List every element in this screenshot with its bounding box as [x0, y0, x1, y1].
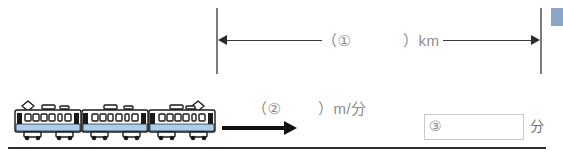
right-arrowhead-icon — [531, 35, 540, 45]
answer-unit-label: 分 — [530, 119, 544, 133]
blue-marker-icon — [551, 8, 563, 26]
speed-arrow-shaft — [222, 126, 286, 130]
speed-arrow-head-icon — [284, 121, 297, 135]
speed-blank-open-label: （② — [252, 101, 281, 116]
distance-blank-open-label: （① — [322, 33, 351, 48]
distance-line-right — [443, 40, 538, 41]
left-arrowhead-icon — [218, 35, 227, 45]
distance-blank-close-label: ）km — [403, 33, 440, 48]
answer-number-label: ③ — [429, 119, 442, 133]
diagram-canvas: （① ）km — [0, 0, 563, 158]
train-illustration — [12, 96, 222, 146]
ground-line — [8, 147, 546, 149]
speed-blank-close-label: ）m/分 — [318, 101, 367, 116]
distance-line-left — [224, 40, 322, 41]
distance-tick-right — [540, 8, 542, 74]
